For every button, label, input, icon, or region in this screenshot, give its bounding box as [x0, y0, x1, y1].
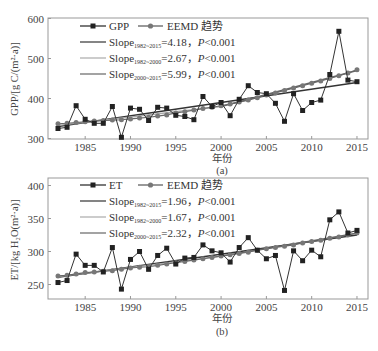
data-point — [228, 260, 233, 265]
data-point — [101, 269, 106, 274]
data-point — [128, 257, 133, 262]
data-point — [219, 250, 224, 255]
trend-point — [336, 234, 341, 239]
data-point — [173, 262, 178, 267]
data-point — [246, 235, 251, 240]
data-point — [291, 248, 296, 253]
et-y-axis: 250300350400 — [28, 180, 52, 291]
data-point — [200, 94, 205, 99]
legend-slope-1982-2015: Slope1982~2015=4.18，P<0.001 — [109, 36, 235, 49]
data-point — [92, 121, 97, 126]
data-point — [101, 121, 106, 126]
legend-slope-2000-2015: Slope2000~2015=5.99，P<0.001 — [109, 68, 235, 81]
data-point — [345, 78, 350, 83]
data-point — [155, 105, 160, 110]
data-point — [74, 252, 79, 257]
trend-point — [164, 262, 169, 267]
data-point — [191, 255, 196, 260]
x-tick-label: 2000 — [210, 301, 233, 313]
trend-point — [273, 90, 278, 95]
et-legend: ET EEMD 趋势 Slope1982~2015=1.96，P<0.001 S… — [80, 179, 235, 240]
data-point — [146, 267, 151, 272]
trend-point — [354, 67, 359, 72]
legend-slope-1982-2000: Slope1982~2000=2.67，P<0.001 — [109, 52, 235, 65]
trend-point — [74, 120, 79, 125]
y-tick-label: 300 — [28, 133, 45, 145]
panel-a-caption: (a) — [216, 165, 228, 177]
data-point — [264, 91, 269, 96]
trend-point — [282, 88, 287, 93]
data-point — [309, 100, 314, 105]
data-point — [92, 263, 97, 268]
et-y-axis-label: ET/[kg H₂O(m²·a)] — [9, 199, 21, 280]
y-tick-label: 600 — [28, 13, 45, 25]
gpp-legend: GPP EEMD 趋势 Slope1982~2015=4.18，P<0.001 … — [80, 20, 235, 81]
trend-point — [291, 86, 296, 91]
gpp-chart-panel: 300400500600 198519901995200020052010201… — [9, 13, 368, 178]
data-point — [354, 228, 359, 233]
data-point — [282, 288, 287, 293]
trend-point — [56, 273, 61, 278]
data-point — [110, 245, 115, 250]
trend-point — [255, 95, 260, 100]
trend-point — [246, 98, 251, 103]
trend-point — [318, 78, 323, 83]
data-point — [210, 248, 215, 253]
data-point — [173, 113, 178, 118]
data-point — [282, 119, 287, 124]
data-point — [155, 253, 160, 258]
data-point — [255, 90, 260, 95]
trend-point — [237, 251, 242, 256]
trend-point — [200, 106, 205, 111]
data-point — [354, 79, 359, 84]
trend-point — [264, 246, 269, 251]
y-tick-label: 400 — [28, 180, 45, 192]
data-point — [264, 256, 269, 261]
data-point — [327, 217, 332, 222]
gpp-y-axis: 300400500600 — [28, 13, 52, 145]
trend-point — [137, 265, 142, 270]
trend-point — [309, 81, 314, 86]
data-point — [219, 100, 224, 105]
data-point — [210, 104, 215, 109]
data-point — [119, 287, 124, 292]
figure: 300400500600 198519901995200020052010201… — [0, 0, 378, 351]
data-point — [327, 72, 332, 77]
data-point — [137, 107, 142, 112]
trend-point — [164, 112, 169, 117]
trend-point — [282, 244, 287, 249]
data-point — [345, 231, 350, 236]
x-tick-label: 1995 — [165, 301, 188, 313]
trend-point — [246, 250, 251, 255]
trend-point — [92, 269, 97, 274]
data-point — [182, 114, 187, 119]
data-point — [164, 106, 169, 111]
y-tick-label: 300 — [28, 246, 45, 258]
trend-point — [74, 271, 79, 276]
trend-point — [110, 268, 115, 273]
x-tick-label: 1985 — [74, 301, 97, 313]
trend-point — [309, 239, 314, 244]
data-point — [246, 83, 251, 88]
data-point — [273, 101, 278, 106]
data-point — [137, 249, 142, 254]
x-tick-label: 2005 — [255, 141, 278, 153]
data-point — [300, 258, 305, 263]
trend-point — [182, 109, 187, 114]
legend-et-label: ET — [109, 179, 123, 191]
data-point — [65, 278, 70, 283]
et-x-axis-label: 年份 — [212, 312, 233, 324]
trend-point — [137, 116, 142, 121]
circle-marker-icon — [148, 182, 153, 187]
trend-point — [128, 116, 133, 121]
data-point — [83, 117, 88, 122]
trend-point — [119, 117, 124, 122]
x-tick-label: 2010 — [301, 301, 324, 313]
et-chart-panel: 250300350400 198519901995200020052010201… — [9, 178, 368, 338]
y-tick-label: 500 — [28, 53, 45, 65]
data-point — [300, 108, 305, 113]
legend-slope-1982-2015: Slope1982~2015=1.96，P<0.001 — [109, 195, 235, 208]
data-point — [146, 118, 151, 123]
trend-point — [228, 102, 233, 107]
data-point — [336, 209, 341, 214]
